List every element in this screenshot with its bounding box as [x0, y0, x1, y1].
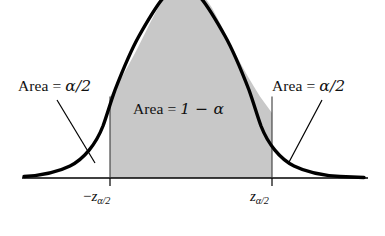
tick-label-right-subscript: α/2: [256, 195, 269, 206]
label-right-tail-area: Area = α/2: [272, 78, 345, 95]
tick-label-positive-z-alpha-half: zα/2: [250, 189, 269, 206]
label-left-tail-value: α/2: [65, 77, 91, 95]
normal-curve-figure: Area = α/2 Area = 1 − α Area = α/2 −zα/2…: [0, 0, 385, 236]
label-central-area: Area = 1 − α: [133, 101, 224, 118]
label-central-prefix: Area =: [133, 100, 180, 117]
tick-label-negative-z-alpha-half: −zα/2: [83, 189, 110, 206]
curve-graphic: [0, 0, 385, 236]
label-left-tail-prefix: Area =: [18, 77, 65, 94]
leader-line-right: [288, 100, 322, 164]
label-left-tail-area: Area = α/2: [18, 78, 91, 95]
label-right-tail-value: α/2: [319, 77, 345, 95]
leader-line-left: [57, 100, 95, 163]
label-central-value: 1 − α: [180, 100, 224, 118]
label-right-tail-prefix: Area =: [272, 77, 319, 94]
tick-label-left-subscript: α/2: [97, 195, 110, 206]
